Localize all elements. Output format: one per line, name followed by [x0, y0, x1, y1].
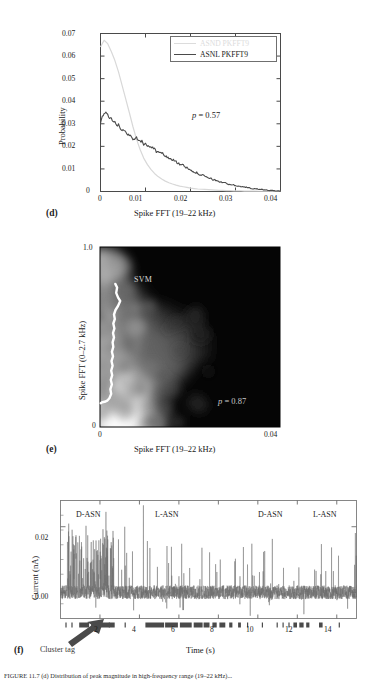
legend-item-1: ASNL PKFFT9 — [171, 49, 276, 60]
panel-d-pvalue-number: = 0.57 — [196, 110, 220, 120]
panel-d-pvalue: p = 0.57 — [192, 110, 220, 120]
panel-d-ylabel: Probability — [57, 107, 67, 145]
panel-e-letter: (e) — [46, 444, 57, 454]
panel-f-xtick-12: 12 — [285, 625, 293, 634]
panel-e-pvalue: p = 0.87 — [218, 396, 246, 406]
panel-f-xtick-2: 2 — [94, 625, 98, 634]
panel-d-ytick-6: 0.01 — [62, 164, 75, 173]
panel-e-plot — [0, 230, 370, 470]
legend-label-asnl: ASNL PKFFT9 — [200, 50, 248, 59]
trace-label-0: D-ASN — [76, 510, 100, 519]
trace-label-3: L-ASN — [313, 510, 337, 519]
panel-d-ytick-7: 0 — [86, 186, 90, 195]
panel-f-xtick-4: 4 — [132, 625, 136, 634]
panel-f-xtick-10: 10 — [246, 625, 254, 634]
panel-e-ytick-bottom: 0 — [92, 421, 96, 430]
panel-d-letter: (d) — [46, 208, 58, 218]
panel-d-legend: ASND PKFFT9 ASNL PKFFT9 — [170, 36, 277, 62]
panel-f-letter: (f) — [14, 645, 24, 655]
panel-d-xtick-1: 0.01 — [129, 194, 142, 203]
panel-d-xtick-2: 0.02 — [174, 194, 187, 203]
panel-d-ytick-1: 0.06 — [62, 51, 75, 60]
panel-e-ylabel: Spike FFT (0–2.7 kHz) — [77, 321, 87, 400]
panel-e-ytick-top: 1.0 — [83, 243, 93, 252]
panel-f-xtick-8: 8 — [210, 625, 214, 634]
panel-e-pvalue-number: = 0.87 — [222, 396, 246, 406]
panel-f-xlabel: Time (s) — [186, 645, 215, 655]
panel-d-xtick-0: 0 — [98, 194, 102, 203]
panel-d-ytick-2: 0.05 — [62, 74, 75, 83]
panel-e-xlabel: Spike FFT (19–22 kHz) — [134, 444, 215, 454]
panel-d-plot — [0, 0, 370, 215]
panel-e-svm-label: SVM — [134, 275, 152, 284]
figure-container: 0.07 0.06 0.05 0.04 0.03 0.02 0.01 0 0 0… — [0, 0, 370, 685]
panel-e-xtick-right: 0.04 — [264, 430, 277, 439]
panel-d-ytick-0: 0.07 — [62, 29, 75, 38]
panel-f-ytick-002: 0.02 — [35, 533, 48, 542]
trace-label-1: L-ASN — [155, 510, 179, 519]
legend-swatch-asnl — [174, 54, 196, 55]
legend-swatch-asnd — [174, 43, 196, 44]
panel-d-xtick-3: 0.03 — [219, 194, 232, 203]
panel-e-xtick-left: 0 — [98, 430, 102, 439]
panel-d-xtick-4: 0.04 — [264, 194, 277, 203]
figure-caption: FIGURE 11.7 (d) Distribution of peak mag… — [4, 672, 366, 685]
trace-label-2: D-ASN — [258, 510, 282, 519]
panel-f-xtick-14: 14 — [324, 625, 332, 634]
panel-f-xtick-6: 6 — [171, 625, 175, 634]
panel-d-xlabel: Spike FFT (19–22 kHz) — [134, 208, 215, 218]
panel-f-plot — [0, 495, 370, 655]
legend-label-asnd: ASND PKFFT9 — [200, 39, 249, 48]
panel-d-ytick-3: 0.04 — [62, 96, 75, 105]
legend-item-0: ASND PKFFT9 — [171, 38, 276, 49]
cluster-tag-label: Cluster tag — [40, 645, 75, 654]
panel-f-ylabel: Current (nA) — [30, 556, 40, 600]
